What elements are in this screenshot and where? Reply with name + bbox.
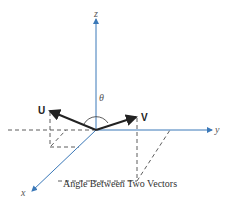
vector-u-label: U [38, 105, 45, 116]
vector-angle-diagram: z y x U V θ Angle Between Two Vectors [0, 0, 226, 209]
vector-v-label: V [141, 112, 148, 123]
angle-theta-label: θ [99, 92, 104, 103]
y-axis-label: y [214, 124, 220, 135]
z-axis-label: z [93, 8, 98, 19]
vector-v [96, 117, 136, 130]
caption: Angle Between Two Vectors [63, 178, 177, 189]
x-axis-label: x [20, 187, 26, 198]
vector-u [50, 111, 96, 130]
